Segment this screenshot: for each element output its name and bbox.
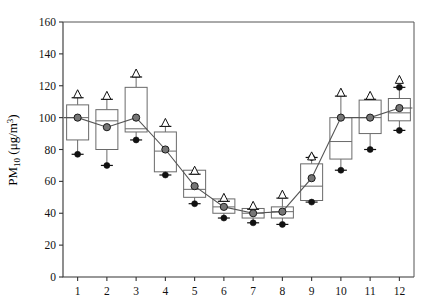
y-tick-label: 100 [39,112,57,124]
lower-extreme-dot [367,147,373,153]
mean-marker [162,146,169,153]
max-triangle-marker [103,91,111,99]
x-tick-label: 1 [75,285,81,297]
x-tick-label: 5 [192,285,198,297]
x-tick-label: 2 [104,285,110,297]
y-tick-label: 140 [39,48,57,60]
y-axis-label: PM10 (μg/m3) [5,114,22,185]
max-triangle-marker [220,193,228,201]
max-triangle-marker [366,91,374,99]
mean-marker [191,183,198,190]
box-plot-group [67,90,89,158]
lower-extreme-dot [279,221,285,227]
max-triangle-marker [74,90,82,98]
mean-marker [103,124,110,131]
boxplot-chart: 020406080100120140160 123456789101112 PM… [0,0,428,308]
lower-extreme-dot [221,215,227,221]
x-tick-label: 11 [365,285,376,297]
x-tick-label: 3 [133,285,139,297]
y-tick-label: 20 [45,239,57,251]
mean-marker [308,175,315,182]
x-tick-label: 9 [309,285,315,297]
box-plot-group [359,91,381,152]
y-tick-label: 160 [39,16,57,28]
max-triangle-marker [395,75,403,83]
max-triangle-marker [249,201,257,209]
box-plot-group [125,69,147,143]
mean-marker [279,208,286,215]
lower-extreme-dot [338,167,344,173]
lower-extreme-dot [250,220,256,226]
mean-marker [396,104,403,111]
mean-marker [250,210,257,217]
mean-marker [133,114,140,121]
y-tick-label: 120 [39,80,57,92]
lower-extreme-dot [75,151,81,157]
box-plots [67,69,411,227]
mean-marker [337,114,344,121]
x-tick-label: 10 [335,285,347,297]
box-rect [67,105,89,140]
x-tick-label: 4 [163,285,169,297]
y-axis-ticks: 020406080100120140160 [39,16,63,283]
box-rect [330,118,352,159]
mean-marker [74,114,81,121]
max-triangle-marker [132,69,140,77]
lower-extreme-dot [162,172,168,178]
lower-extreme-dot [192,201,198,207]
lower-extreme-dot [396,127,402,133]
x-tick-label: 6 [221,285,227,297]
lower-extreme-dot [309,199,315,205]
y-tick-label: 80 [45,144,57,156]
mean-marker [367,114,374,121]
lower-extreme-dot [104,162,110,168]
y-tick-label: 60 [45,175,57,187]
box-plot-group [330,88,352,173]
lower-extreme-dot [133,137,139,143]
x-tick-label: 7 [250,285,256,297]
max-triangle-marker [278,190,286,198]
chart-figure: 020406080100120140160 123456789101112 PM… [0,0,428,308]
x-tick-label: 8 [280,285,286,297]
y-tick-label: 0 [50,271,56,283]
x-tick-label: 12 [394,285,406,297]
y-tick-label: 40 [45,207,57,219]
x-axis-ticks: 123456789101112 [75,277,406,297]
mean-marker [220,203,227,210]
upper-extreme-dot [396,84,402,90]
max-triangle-marker [337,88,345,96]
max-triangle-marker [161,118,169,126]
